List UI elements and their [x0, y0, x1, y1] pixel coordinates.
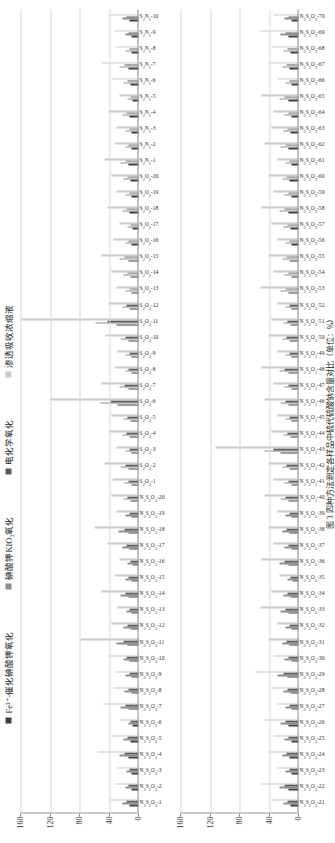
bar[interactable] [108, 110, 138, 112]
bar[interactable] [117, 606, 138, 608]
bar[interactable] [261, 366, 298, 368]
bar[interactable] [108, 302, 138, 304]
bar[interactable] [268, 254, 298, 256]
bar[interactable] [268, 62, 298, 64]
bar[interactable] [111, 414, 138, 416]
bar[interactable] [111, 270, 138, 272]
bar[interactable] [111, 494, 138, 496]
bar[interactable] [112, 478, 138, 480]
bar[interactable] [277, 767, 298, 769]
bar[interactable] [268, 174, 298, 176]
bar[interactable] [101, 590, 138, 592]
bar[interactable] [273, 382, 298, 384]
bar[interactable] [271, 126, 298, 128]
bar[interactable] [277, 414, 298, 416]
bar[interactable] [111, 174, 138, 176]
bar[interactable] [273, 655, 298, 657]
bar[interactable] [108, 655, 138, 657]
bar[interactable] [273, 270, 298, 272]
bar[interactable] [255, 671, 298, 673]
bar[interactable] [94, 526, 138, 528]
category-tick-label: N2S2O3-64 [299, 109, 324, 117]
bar[interactable] [114, 366, 138, 368]
bar[interactable] [113, 687, 138, 689]
bar[interactable] [114, 30, 138, 32]
bar[interactable] [114, 783, 138, 785]
bar[interactable] [271, 590, 298, 592]
bar[interactable] [107, 542, 138, 544]
bar[interactable] [116, 46, 138, 48]
y-axis-top: 04080120160 [20, 813, 138, 835]
bar[interactable] [116, 510, 138, 512]
bar[interactable] [101, 62, 138, 64]
legend-item-3[interactable]: 渗透吸收浓缩液 [4, 304, 13, 377]
bar[interactable] [119, 558, 138, 560]
bar[interactable] [97, 751, 138, 753]
bar[interactable] [271, 46, 298, 48]
bar[interactable] [271, 222, 298, 224]
bar[interactable] [114, 142, 138, 144]
bar[interactable] [111, 622, 138, 624]
bar[interactable] [111, 78, 138, 80]
bar[interactable] [260, 30, 298, 32]
legend-swatch-icon [5, 468, 11, 474]
bar[interactable] [268, 334, 298, 336]
bar[interactable] [116, 190, 138, 192]
bar[interactable] [261, 94, 298, 96]
bar[interactable] [119, 94, 138, 96]
bar[interactable] [109, 430, 139, 432]
bar[interactable] [273, 14, 298, 16]
bar[interactable] [215, 446, 298, 448]
bar[interactable] [273, 735, 298, 737]
bar[interactable] [119, 222, 138, 224]
bar[interactable] [260, 606, 298, 608]
bar[interactable] [260, 286, 298, 288]
bar[interactable] [273, 110, 298, 112]
bar[interactable] [261, 783, 298, 785]
bar[interactable] [277, 238, 298, 240]
bar[interactable] [273, 478, 298, 480]
bar[interactable] [108, 14, 138, 16]
bar[interactable] [101, 382, 138, 384]
category-tick-label: S2O3-2 [139, 462, 155, 470]
bar[interactable] [261, 558, 298, 560]
bar[interactable] [109, 799, 139, 801]
bar[interactable] [114, 574, 138, 576]
bar[interactable] [277, 302, 298, 304]
legend-item-0[interactable]: Fe³⁺-催化碘酸钾氧化 [4, 631, 13, 723]
bar[interactable] [273, 190, 298, 192]
bar[interactable] [277, 622, 298, 624]
category-tick-label: N2S2O3-34 [299, 590, 324, 598]
bar[interactable] [120, 719, 138, 721]
bar[interactable] [111, 735, 138, 737]
bar[interactable] [271, 687, 298, 689]
legend-item-1[interactable]: 碘酸钾KIO₃氧化 [4, 516, 13, 589]
bar[interactable] [277, 78, 298, 80]
bar[interactable] [277, 158, 298, 160]
bar[interactable] [271, 318, 298, 320]
bar[interactable] [271, 430, 298, 432]
bar[interactable] [268, 639, 298, 641]
bar[interactable] [116, 126, 138, 128]
bar[interactable] [271, 799, 298, 801]
bar[interactable] [277, 510, 298, 512]
bar[interactable] [273, 542, 298, 544]
legend-item-2[interactable]: 电化学氧化 [4, 419, 13, 474]
bar[interactable] [277, 703, 298, 705]
bar[interactable] [101, 254, 138, 256]
bar[interactable] [261, 206, 298, 208]
bar[interactable] [117, 350, 138, 352]
bar[interactable] [277, 350, 298, 352]
bar[interactable] [113, 238, 138, 240]
bar[interactable] [268, 462, 298, 464]
bar[interactable] [117, 767, 138, 769]
bar[interactable] [279, 574, 298, 576]
bar[interactable] [107, 206, 138, 208]
bar[interactable] [268, 751, 298, 753]
category-tick-label: S2O3-20 [139, 173, 158, 181]
bar[interactable] [116, 286, 138, 288]
bar[interactable] [268, 526, 298, 528]
bar[interactable] [50, 398, 139, 400]
bar[interactable] [116, 671, 138, 673]
bar[interactable] [116, 446, 138, 448]
